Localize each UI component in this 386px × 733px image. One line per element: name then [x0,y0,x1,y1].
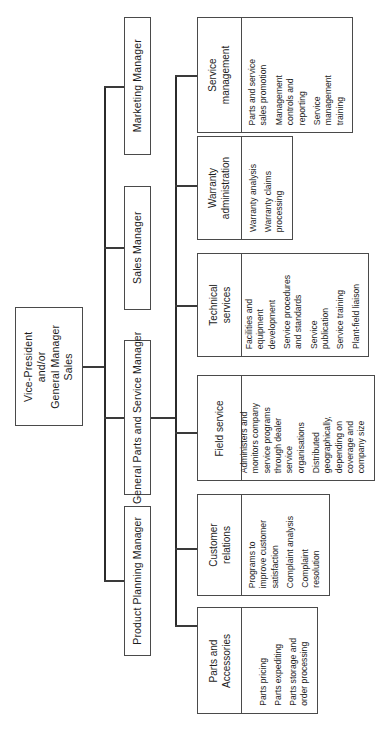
unit-service-management-header: Servicemanagement [198,18,242,132]
node-marketing-manager-label-wrap: Marketing Manager [125,18,150,154]
unit-field-service-header: Field service [198,376,242,480]
unit-customer-relations[interactable]: Customerrelations Complaint resolution C… [197,494,330,596]
node-product-planning-manager[interactable]: Product Planning Manager [124,506,151,656]
list-item: Service procedures and standards [282,275,305,349]
list-item: Parts pricing [258,658,269,706]
connector-to-marketing-manager [104,86,124,88]
unit-parts-and-accessories-title: Parts andAccessories [207,634,233,688]
list-item: Service management training [312,75,346,125]
connector-to-technical-services [175,305,198,307]
connector-to-product-planning-manager [104,580,124,582]
node-product-planning-manager-label-wrap: Product Planning Manager [125,507,150,655]
unit-field-service-title-wrap: Field service [198,376,241,480]
list-item: Parts expediting [273,644,284,706]
connector-to-field-service [175,432,198,434]
unit-warranty-administration[interactable]: Warrantyadministration Warranty claims p… [197,136,293,240]
connector-to-warranty-administration [175,185,198,187]
node-general-parts-and-service-manager-label-wrap: General Parts and Service Manager [125,341,150,494]
list-item: Service training [335,290,346,349]
node-general-parts-and-service-manager[interactable]: General Parts and Service Manager [124,340,151,495]
unit-service-management-items: Service management training Management c… [242,18,352,132]
node-sales-manager-label: Sales Manager [131,212,144,285]
connector-to-customer-relations [175,548,198,550]
list-item: Warranty claims processing [263,171,286,232]
node-sales-manager[interactable]: Sales Manager [124,186,151,310]
node-product-planning-manager-label: Product Planning Manager [131,517,144,645]
org-chart: Vice-Presidentand/orGeneral ManagerSales… [0,0,386,733]
unit-service-management[interactable]: Servicemanagement Service management tra… [197,17,353,133]
list-item: Warranty analysis [248,164,259,232]
list-item: Distributed geographically, depending on… [311,416,368,473]
list-item: Parts and service sales promotion [247,59,270,125]
connector-gpsm-stub [151,417,176,419]
connector-root-stub [83,366,105,368]
unit-technical-services[interactable]: Technicalservices Plant-field liaison Se… [197,253,369,357]
node-vice-president-label: Vice-Presidentand/orGeneral ManagerSales [22,325,76,409]
unit-warranty-administration-title: Warrantyadministration [207,157,233,219]
unit-service-management-title: Servicemanagement [207,46,233,104]
connector-to-sales-manager [104,247,124,249]
node-vice-president[interactable]: Vice-Presidentand/orGeneral ManagerSales [15,307,83,426]
unit-parts-and-accessories[interactable]: Parts andAccessories Parts storage and o… [197,607,318,714]
node-marketing-manager[interactable]: Marketing Manager [124,17,151,155]
unit-technical-services-items: Plant-field liaison Service training Ser… [242,254,368,356]
list-item: Plant-field liaison [351,284,362,349]
unit-technical-services-title-wrap: Technicalservices [198,254,241,356]
connector-to-general-parts-and-service-manager [104,417,124,419]
list-item: Parts storage and order processing [288,638,311,706]
node-sales-manager-label-wrap: Sales Manager [125,187,150,309]
unit-field-service[interactable]: Field service Distributed geographically… [197,375,375,481]
unit-parts-and-accessories-title-wrap: Parts andAccessories [198,608,241,713]
unit-technical-services-title: Technicalservices [206,284,232,326]
unit-field-service-items: Distributed geographically, depending on… [242,376,374,480]
unit-parts-and-accessories-header: Parts andAccessories [198,608,242,713]
unit-field-service-title: Field service [213,400,226,456]
connector-unit-bus [175,75,177,626]
unit-warranty-administration-items: Warranty claims processing Warranty anal… [242,137,292,239]
unit-customer-relations-title: Customerrelations [207,523,233,566]
list-item: Complaint resolution [300,549,323,588]
node-vice-president-label-wrap: Vice-Presidentand/orGeneral ManagerSales [16,308,82,425]
unit-warranty-administration-title-wrap: Warrantyadministration [198,137,241,239]
unit-customer-relations-items: Complaint resolution Complaint analysis … [242,495,329,595]
list-item: Service publication [309,308,332,349]
unit-technical-services-header: Technicalservices [198,254,242,356]
node-general-parts-and-service-manager-label: General Parts and Service Manager [131,331,144,503]
unit-parts-and-accessories-items: Parts storage and order processing Parts… [242,608,317,713]
unit-warranty-administration-header: Warrantyadministration [198,137,242,239]
list-item: Administers and monitors company service… [239,403,307,473]
unit-service-management-title-wrap: Servicemanagement [198,18,241,132]
unit-customer-relations-header: Customerrelations [198,495,242,595]
list-item: Facilities and equipment development [244,299,278,349]
connector-to-parts-and-accessories [175,625,198,627]
list-item: Programs to improve customer satisfactio… [247,520,281,588]
list-item: Management controls and reporting [274,75,308,125]
node-marketing-manager-label: Marketing Manager [131,39,144,132]
list-item: Complaint analysis [285,516,296,588]
connector-manager-bus [104,86,106,581]
connector-to-service-management [175,75,198,77]
unit-customer-relations-title-wrap: Customerrelations [198,495,241,595]
